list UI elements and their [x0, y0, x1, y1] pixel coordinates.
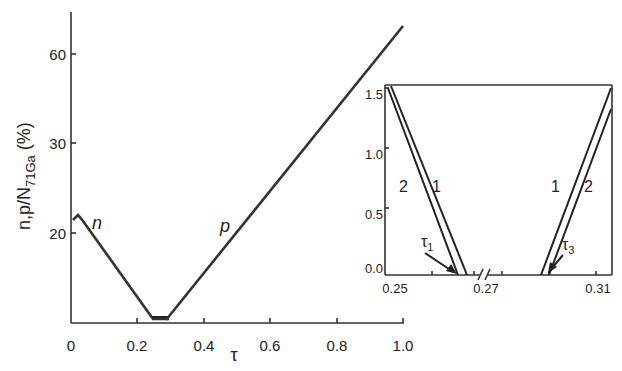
inset-label-1-left: 1: [432, 178, 441, 195]
inset-x-tick-label: 0.25: [382, 281, 407, 296]
series-p-label: p: [219, 216, 230, 236]
x-tick-label: 1.0: [393, 337, 414, 354]
inset-label-1-right: 1: [551, 178, 560, 195]
y-tick-label: 30: [49, 135, 66, 152]
y-tick-label: 20: [49, 225, 66, 242]
inset-plot: 0.0 0.5 1.0 1.5 0.25 0.27 0.31 2 1 1 2 τ…: [365, 85, 612, 296]
x-tick-label: 0.2: [127, 337, 148, 354]
x-axis-label: τ: [230, 345, 237, 365]
main-plot: 0 0.2 0.4 0.6 0.8 1.0 τ 20 30 60 n,p/N71…: [14, 12, 413, 365]
x-tick-label: 0.8: [327, 337, 348, 354]
inset-y-tick-label: 1.0: [365, 147, 383, 162]
inset-y-tick-label: 0.5: [365, 207, 383, 222]
series-n-label: n: [92, 213, 102, 233]
inset-x-tick-label: 0.27: [473, 281, 498, 296]
x-tick-label: 0: [67, 337, 75, 354]
chart-canvas: 0 0.2 0.4 0.6 0.8 1.0 τ 20 30 60 n,p/N71…: [0, 0, 622, 371]
y-tick-label: 60: [49, 46, 66, 63]
inset-label-2-right: 2: [584, 178, 593, 195]
x-tick-label: 0.4: [194, 337, 215, 354]
inset-label-2-left: 2: [399, 178, 408, 195]
inset-y-tick-label: 1.5: [365, 87, 383, 102]
series-n-line: [73, 215, 169, 319]
y-axis-label: n,p/N71Ga (%): [14, 122, 38, 230]
inset-y-tick-label: 0.0: [365, 261, 383, 276]
inset-x-tick-label: 0.31: [585, 281, 610, 296]
x-tick-label: 0.6: [260, 337, 281, 354]
